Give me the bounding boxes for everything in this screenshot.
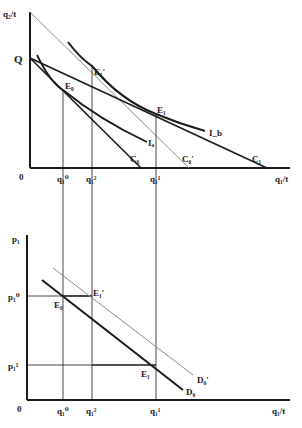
lower-panel: p₁ p₁⁰ p₁¹ E₀ E₁′ E₁ D₀′ D₀ 0 q₁⁰ q₁² q₁… bbox=[8, 234, 290, 416]
curve-ib-label: I_b bbox=[209, 128, 222, 138]
indifference-curve-ib bbox=[68, 42, 205, 131]
lower-point-e0-label: E₀ bbox=[54, 300, 63, 310]
upper-panel: q₂/t Q E₀ E₁′ E₁ Iₐ I_b C₀ C₀′ C₁ 0 q₁⁰ … bbox=[3, 9, 290, 400]
budget-line-c1 bbox=[30, 58, 267, 168]
lower-x-tick-q1-1: q₁¹ bbox=[150, 406, 161, 416]
upper-origin-label: 0 bbox=[19, 172, 24, 182]
curve-c0-prime-label: C₀′ bbox=[182, 154, 194, 164]
lower-point-e1-label: E₁ bbox=[141, 369, 150, 379]
point-e1-label: E₁ bbox=[157, 105, 166, 115]
budget-line-c0 bbox=[30, 58, 141, 168]
economics-diagram: q₂/t Q E₀ E₁′ E₁ Iₐ I_b C₀ C₀′ C₁ 0 q₁⁰ … bbox=[0, 0, 302, 428]
budget-line-c0-prime bbox=[30, 12, 189, 168]
lower-x-axis-label: q₁/t bbox=[272, 406, 285, 416]
curve-d0-label: D₀ bbox=[186, 387, 195, 397]
curve-d0-prime-label: D₀′ bbox=[197, 375, 209, 385]
point-e0-label: E₀ bbox=[65, 81, 74, 91]
lower-y-tick-p1-0: p₁⁰ bbox=[8, 292, 20, 302]
upper-y-axis-label: q₂/t bbox=[3, 9, 16, 19]
lower-x-tick-q1-0: q₁⁰ bbox=[57, 406, 69, 416]
lower-origin-label: 0 bbox=[17, 404, 22, 414]
lower-point-e1-prime-label: E₁′ bbox=[93, 288, 104, 298]
upper-x-tick-q1-2: q₁² bbox=[86, 174, 97, 184]
curve-ia-label: Iₐ bbox=[148, 138, 155, 148]
demand-curve-d0-prime bbox=[53, 268, 193, 375]
point-e1-prime-label: E₁′ bbox=[94, 67, 105, 77]
curve-c1-label: C₁ bbox=[252, 154, 261, 164]
upper-x-tick-q1-0: q₁⁰ bbox=[57, 174, 69, 184]
endowment-label: Q bbox=[14, 53, 23, 65]
upper-x-tick-q1-1: q₁¹ bbox=[150, 174, 161, 184]
lower-y-tick-p1-1: p₁¹ bbox=[8, 361, 19, 371]
curve-c0-label: C₀ bbox=[130, 154, 139, 164]
lower-y-axis-label: p₁ bbox=[12, 234, 20, 244]
upper-x-axis-label: q₁/t bbox=[275, 174, 288, 184]
lower-x-tick-q1-2: q₁² bbox=[86, 406, 97, 416]
